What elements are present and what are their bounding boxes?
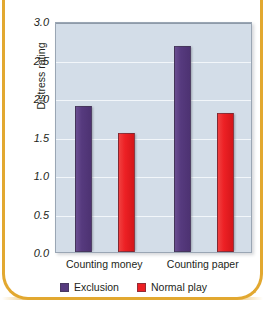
legend-item-exclusion[interactable]: Exclusion	[60, 281, 119, 293]
y-axis-tick-label: 2.5	[9, 55, 49, 67]
legend-swatch-icon	[60, 283, 69, 292]
legend-label: Exclusion	[74, 281, 119, 293]
chart-legend: ExclusionNormal play	[0, 281, 267, 293]
bar-normal-play-counting-paper	[217, 113, 234, 252]
y-axis-tick-label: 2.0	[9, 93, 49, 105]
x-axis-label-counting-money: Counting money	[55, 258, 154, 270]
chart-title	[46, 0, 256, 2]
legend-item-normal-play[interactable]: Normal play	[137, 281, 207, 293]
legend-swatch-icon	[137, 283, 146, 292]
bar-fill	[217, 113, 234, 252]
y-axis-tick-label: 1.5	[9, 132, 49, 144]
plot-area	[55, 22, 252, 253]
bar-fill	[118, 133, 135, 252]
bar-normal-play-counting-money	[118, 133, 135, 252]
bar-fill	[75, 106, 92, 252]
y-axis-tick-label: 3.0	[9, 16, 49, 28]
y-axis-tick-label: 1.0	[9, 170, 49, 182]
bar-exclusion-counting-paper	[174, 46, 191, 252]
chart-figure: Distress rating 3.02.52.01.51.00.50.0 Co…	[0, 0, 267, 309]
gridline	[56, 23, 251, 24]
gridline	[56, 100, 251, 101]
legend-label: Normal play	[151, 281, 207, 293]
x-axis-label-counting-paper: Counting paper	[154, 258, 253, 270]
bar-exclusion-counting-money	[75, 106, 92, 252]
y-axis-tick-label: 0.5	[9, 209, 49, 221]
y-axis-tick-label: 0.0	[9, 247, 49, 259]
bar-fill	[174, 46, 191, 252]
gridline	[56, 62, 251, 63]
